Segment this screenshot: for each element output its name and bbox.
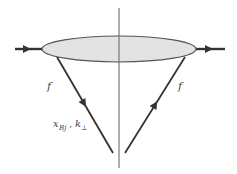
feynman-diagram: f f x Bj , k ⊥ [0, 0, 237, 174]
right-quark-arrow-icon [150, 99, 161, 110]
kinematics-x-subscript: Bj [58, 124, 67, 132]
kinematics-label: x Bj , k ⊥ [53, 118, 88, 132]
left-flavor-label: f [46, 80, 53, 93]
right-flavor-label: f [177, 80, 184, 93]
incoming-arrow-icon [23, 45, 31, 53]
left-quark-arrow-icon [79, 98, 90, 109]
kinematics-separator: , [69, 118, 72, 129]
outgoing-arrow-icon [205, 45, 213, 53]
kinematics-k-subscript: ⊥ [81, 124, 88, 132]
